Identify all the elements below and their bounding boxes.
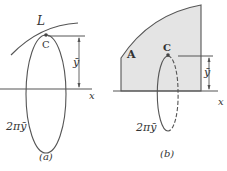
circumference-label: 2πȳ: [6, 121, 26, 132]
centroid-point: [44, 33, 48, 37]
curve-label: L: [37, 15, 45, 27]
revolution-ellipse: [26, 35, 66, 153]
axis-label: x: [218, 97, 224, 107]
caption-b: (b): [160, 149, 174, 159]
caption-a: (a): [39, 152, 53, 162]
axis-label: x: [89, 91, 95, 101]
diagram-canvas: [0, 0, 227, 171]
circumference-label: 2πȳ: [136, 122, 156, 133]
centroid-point: [166, 53, 170, 57]
figure-b: [113, 5, 218, 131]
distance-label: ȳ: [73, 57, 79, 68]
distance-label: ȳ: [204, 67, 210, 78]
centroid-label: C: [163, 43, 171, 53]
area-label: A: [127, 49, 136, 60]
centroid-label: C: [42, 40, 50, 50]
